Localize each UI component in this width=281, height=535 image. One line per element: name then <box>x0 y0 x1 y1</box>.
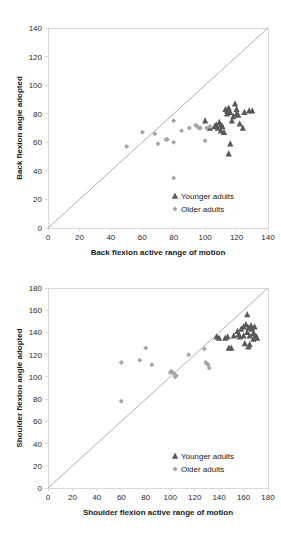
legend-label: Older adults <box>181 205 224 214</box>
y-tick-label: 180 <box>29 284 43 293</box>
x-tick-label: 20 <box>75 233 84 242</box>
y-tick-label: 40 <box>33 167 42 176</box>
y-tick-label: 0 <box>38 484 43 493</box>
x-tick-label: 80 <box>141 493 150 502</box>
shoulder-flexion-scatter-svg: 0204060801001201401601800204060801001201… <box>0 266 281 535</box>
y-tick-label: 160 <box>29 306 43 315</box>
chart-back-flexion: 020406080100120140020406080100120140Back… <box>0 0 281 266</box>
legend-label: Younger adults <box>181 452 234 461</box>
x-tick-label: 60 <box>138 233 147 242</box>
y-axis-title: Back flexion angle adopted <box>15 76 24 180</box>
x-tick-label: 140 <box>212 493 226 502</box>
x-tick-label: 100 <box>198 233 212 242</box>
y-tick-label: 120 <box>29 53 43 62</box>
x-tick-label: 100 <box>164 493 178 502</box>
y-tick-label: 60 <box>33 417 42 426</box>
y-tick-label: 60 <box>33 138 42 147</box>
legend-label: Younger adults <box>181 192 234 201</box>
legend-label: Older adults <box>181 465 224 474</box>
y-tick-label: 80 <box>33 395 42 404</box>
chart-shoulder-flexion: 0204060801001201401601800204060801001201… <box>0 266 281 535</box>
x-tick-label: 20 <box>68 493 77 502</box>
x-axis-title: Back flexion active range of motion <box>91 248 226 257</box>
x-tick-label: 40 <box>92 493 101 502</box>
x-tick-label: 0 <box>46 493 51 502</box>
x-tick-label: 180 <box>261 493 275 502</box>
x-tick-label: 60 <box>117 493 126 502</box>
x-tick-label: 160 <box>237 493 251 502</box>
x-tick-label: 0 <box>46 233 51 242</box>
y-tick-label: 40 <box>33 440 42 449</box>
x-tick-label: 140 <box>261 233 275 242</box>
y-tick-label: 100 <box>29 373 43 382</box>
x-tick-label: 120 <box>188 493 202 502</box>
y-tick-label: 80 <box>33 110 42 119</box>
y-tick-label: 20 <box>33 195 42 204</box>
x-tick-label: 80 <box>169 233 178 242</box>
y-tick-label: 140 <box>29 328 43 337</box>
figure-page: 020406080100120140020406080100120140Back… <box>0 0 281 535</box>
y-tick-label: 120 <box>29 351 43 360</box>
y-tick-label: 140 <box>29 24 43 33</box>
y-tick-label: 100 <box>29 81 43 90</box>
x-tick-label: 120 <box>230 233 244 242</box>
x-axis-title: Shoulder flexion active range of motion <box>83 508 233 517</box>
back-flexion-scatter-svg: 020406080100120140020406080100120140Back… <box>0 0 281 266</box>
y-tick-label: 0 <box>38 224 43 233</box>
y-tick-label: 20 <box>33 462 42 471</box>
y-axis-title: Shoulder flexion angle adopted <box>15 328 24 447</box>
x-tick-label: 40 <box>106 233 115 242</box>
